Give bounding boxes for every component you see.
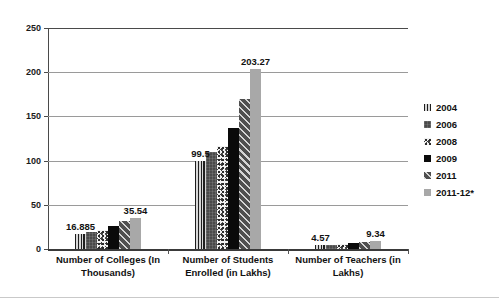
bar-2011-g2 [359,242,370,249]
legend-label: 2011 [436,170,457,181]
bar-2011-g1 [239,99,250,249]
legend-swatch-icon [424,172,431,179]
bar-2006-g1 [206,152,217,249]
legend-label: 2006 [436,119,457,130]
bar-2006-g0 [86,232,97,249]
data-label: 9.34 [366,228,385,239]
legend-swatch-icon [424,104,431,111]
legend-label: 2004 [436,102,457,113]
y-tick-label: 50 [31,200,41,210]
y-tick-label: 100 [26,156,41,166]
bar-2006-g2 [326,245,337,249]
cropped-caption [0,0,499,3]
bar-2011-12-g1 [250,69,261,249]
data-label: 203.27 [241,56,270,67]
legend-item-2006[interactable]: 2006 [424,116,474,133]
x-axis-label: Number of Colleges (In Thousands) [48,254,168,279]
legend-item-2009[interactable]: 2009 [424,150,474,167]
legend-swatch-icon [424,138,431,145]
bar-chart: 050100150200250 16.88535.5499.5203.274.5… [0,0,499,301]
data-label: 99.5 [191,148,210,159]
plot-area: 050100150200250 16.88535.5499.5203.274.5… [48,28,408,250]
legend-swatch-icon [424,155,431,162]
x-tick [408,249,409,254]
legend: 200420062008200920112011-12* [424,99,474,201]
x-axis-label: Number of Students Enrolled (in Lakhs) [168,254,288,279]
bar-2004-g2 [315,245,326,249]
legend-item-2011[interactable]: 2011 [424,167,474,184]
bar-2004-g1 [195,161,206,249]
bar-2008-g1 [217,146,228,249]
bar-2009-g2 [348,243,359,249]
legend-item-2008[interactable]: 2008 [424,133,474,150]
bar-group [48,28,168,249]
bar-2009-g0 [108,226,119,249]
bar-2008-g2 [337,244,348,249]
data-label: 16.885 [66,221,95,232]
bar-2004-g0 [75,234,86,249]
data-label: 35.54 [124,205,148,216]
legend-swatch-icon [424,189,431,196]
legend-label: 2009 [436,153,457,164]
legend-swatch-icon [424,121,431,128]
data-label: 4.57 [311,232,330,243]
x-axis-line [48,249,408,251]
bar-2011-12-g2 [370,241,381,249]
legend-label: 2008 [436,136,457,147]
y-tick-label: 0 [36,244,41,254]
legend-item-2004[interactable]: 2004 [424,99,474,116]
legend-label: 2011-12* [436,187,474,198]
y-tick-label: 150 [26,111,41,121]
y-tick-label: 200 [26,67,41,77]
y-tick [44,249,48,250]
x-axis-label: Number of Teachers (in Lakhs) [288,254,408,279]
legend-item-2011-12[interactable]: 2011-12* [424,184,474,201]
bottom-divider [0,297,499,298]
bar-2011-g0 [119,221,130,249]
bar-2008-g0 [97,230,108,249]
bar-2009-g1 [228,128,239,249]
bar-group [288,28,408,249]
y-tick-label: 250 [26,23,41,33]
bar-2011-12-g0 [130,218,141,249]
